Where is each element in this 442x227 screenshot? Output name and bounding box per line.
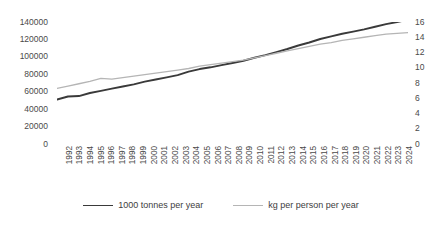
series-line — [57, 33, 408, 89]
x-axis-tick: 2013 — [289, 146, 297, 164]
y-axis-left-tick: 140000 — [20, 18, 48, 27]
y-axis-left-tick: 120000 — [20, 35, 48, 44]
y-axis-right: 0246810121416 — [410, 22, 442, 144]
x-axis-tick: 1995 — [98, 146, 106, 164]
x-axis-tick: 2003 — [183, 146, 191, 164]
legend-item[interactable]: kg per person per year — [233, 200, 359, 210]
x-axis-tick: 2006 — [215, 146, 223, 164]
x-axis-tick: 2016 — [321, 146, 329, 164]
x-axis-tick: 2023 — [395, 146, 403, 164]
y-axis-right-tick: 16 — [415, 18, 424, 27]
x-axis: 1992199319941995199619971998199920002001… — [57, 146, 408, 190]
x-axis-tick: 2010 — [257, 146, 265, 164]
y-axis-left-tick: 100000 — [20, 52, 48, 61]
legend-line-icon — [233, 205, 263, 206]
y-axis-left-tick: 20000 — [24, 122, 48, 131]
y-axis-left-tick: 60000 — [24, 87, 48, 96]
y-axis-right-tick: 14 — [415, 33, 424, 42]
legend-item[interactable]: 1000 tonnes per year — [83, 200, 203, 210]
x-axis-tick: 2012 — [278, 146, 286, 164]
line-chart: 020000400006000080000100000120000140000 … — [0, 0, 442, 227]
y-axis-left: 020000400006000080000100000120000140000 — [0, 22, 52, 144]
chart-legend: 1000 tonnes per yearkg per person per ye… — [0, 200, 442, 210]
plot-area — [57, 22, 408, 144]
x-axis-tick: 2004 — [193, 146, 201, 164]
x-axis-tick: 2009 — [246, 146, 254, 164]
x-axis-tick: 2008 — [236, 146, 244, 164]
x-axis-tick: 1994 — [87, 146, 95, 164]
x-axis-tick: 2000 — [151, 146, 159, 164]
x-axis-tick: 1993 — [76, 146, 84, 164]
x-axis-tick: 2021 — [374, 146, 382, 164]
legend-line-icon — [83, 205, 113, 206]
series-container — [57, 22, 408, 144]
y-axis-left-tick: 80000 — [24, 70, 48, 79]
x-axis-tick: 1996 — [108, 146, 116, 164]
legend-label: kg per person per year — [268, 200, 359, 210]
y-axis-left-tick: 40000 — [24, 105, 48, 114]
x-axis-tick: 2001 — [161, 146, 169, 164]
x-axis-tick: 1992 — [66, 146, 74, 164]
series-line — [57, 22, 408, 100]
y-axis-left-tick: 0 — [43, 140, 48, 149]
y-axis-right-tick: 2 — [415, 124, 420, 133]
x-axis-tick: 2011 — [268, 146, 276, 164]
y-axis-right-tick: 4 — [415, 109, 420, 118]
x-axis-tick: 1999 — [140, 146, 148, 164]
x-axis-tick: 1997 — [119, 146, 127, 164]
x-axis-tick: 2019 — [353, 146, 361, 164]
x-axis-tick: 2020 — [363, 146, 371, 164]
y-axis-right-tick: 6 — [415, 94, 420, 103]
y-axis-right-tick: 10 — [415, 63, 424, 72]
x-axis-tick: 2014 — [300, 146, 308, 164]
x-axis-tick: 2017 — [332, 146, 340, 164]
x-axis-tick: 2015 — [310, 146, 318, 164]
x-axis-tick: 2022 — [385, 146, 393, 164]
x-axis-tick: 2005 — [204, 146, 212, 164]
x-axis-tick: 1998 — [129, 146, 137, 164]
x-axis-tick: 2007 — [225, 146, 233, 164]
x-axis-tick: 2018 — [342, 146, 350, 164]
y-axis-right-tick: 12 — [415, 48, 424, 57]
x-axis-tick: 2024 — [406, 146, 414, 164]
legend-label: 1000 tonnes per year — [118, 200, 203, 210]
y-axis-right-tick: 0 — [415, 140, 420, 149]
y-axis-right-tick: 8 — [415, 79, 420, 88]
x-axis-tick: 2002 — [172, 146, 180, 164]
